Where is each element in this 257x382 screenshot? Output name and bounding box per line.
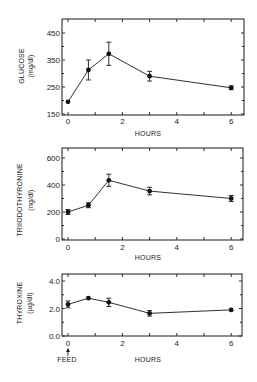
plot-frame [62, 148, 243, 240]
y-tick-label: 150 [47, 110, 61, 119]
data-point [147, 74, 152, 79]
data-point [106, 178, 111, 183]
x-tick-label: 4 [175, 339, 180, 348]
y-tick-label: 600 [47, 154, 61, 163]
data-point [86, 296, 91, 301]
data-point [66, 302, 71, 307]
triiodothyronine-panel: 02460200400600TRIIODOTHYRONINE(ng/dl)HOU… [16, 148, 243, 261]
x-tick-label: 2 [120, 339, 125, 348]
x-tick-label: 4 [175, 243, 180, 252]
x-tick-label: 2 [120, 243, 125, 252]
x-tick-label: 4 [175, 117, 180, 126]
x-axis-label: HOURS [135, 356, 161, 363]
y-axis-units: (µg/dl) [26, 292, 34, 313]
data-point [229, 196, 234, 201]
data-point [66, 99, 71, 104]
x-tick-label: 2 [120, 117, 125, 126]
y-tick-label: 0.0 [49, 332, 61, 341]
y-tick-label: 350 [47, 56, 61, 65]
data-point [229, 307, 234, 312]
data-series-line [68, 180, 231, 212]
data-point [86, 203, 91, 208]
y-tick-label: 4.0 [49, 277, 61, 286]
glucose-panel: 0246150250350450GLUCOSE(mg/dl)HOURS [18, 19, 244, 137]
figure-three-panel-chart: 0246150250350450GLUCOSE(mg/dl)HOURS02460… [0, 0, 257, 382]
y-axis-units: (mg/dl) [27, 54, 35, 77]
y-axis-label: THYROXINE [16, 282, 23, 325]
x-tick-label: 0 [66, 117, 71, 126]
x-tick-label: 6 [229, 117, 234, 126]
data-point [66, 210, 71, 215]
thyroxine-panel: 02460.02.04.0THYROXINE(µg/dl)HOURSFEED [16, 274, 242, 363]
data-point [147, 311, 152, 316]
x-tick-label: 0 [66, 243, 71, 252]
x-tick-label: 6 [229, 339, 234, 348]
x-axis-label: HOURS [135, 254, 161, 261]
x-tick-label: 6 [229, 243, 234, 252]
y-tick-label: 0 [56, 235, 61, 244]
y-axis-label: GLUCOSE [18, 48, 25, 84]
y-tick-label: 400 [47, 181, 61, 190]
x-axis-label: HOURS [135, 130, 161, 137]
plot-frame [62, 19, 244, 115]
y-tick-label: 200 [47, 208, 61, 217]
y-tick-label: 450 [47, 29, 61, 38]
data-point [229, 85, 234, 90]
y-axis-label: TRIIODOTHYRONINE [16, 163, 23, 237]
feed-annotation: FEED [57, 356, 76, 363]
data-point [106, 300, 111, 305]
arrow-up-icon [66, 348, 70, 352]
data-point [86, 68, 91, 73]
y-axis-units: (ng/dl) [27, 189, 35, 210]
data-point [147, 189, 152, 194]
data-point [106, 51, 111, 56]
x-tick-label: 0 [66, 339, 71, 348]
y-tick-label: 2.0 [49, 305, 61, 314]
y-tick-label: 250 [47, 83, 61, 92]
plot-frame [62, 274, 242, 336]
